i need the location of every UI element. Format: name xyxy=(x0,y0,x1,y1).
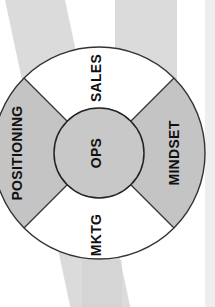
ring-diagram: SALES MINDSET MKTG POSITIONING OPS xyxy=(0,0,215,307)
label-mktg: MKTG xyxy=(88,214,104,256)
label-ops: OPS xyxy=(88,138,104,168)
label-mindset: MINDSET xyxy=(166,120,182,185)
label-sales: SALES xyxy=(88,54,104,102)
label-positioning: POSITIONING xyxy=(9,105,25,200)
